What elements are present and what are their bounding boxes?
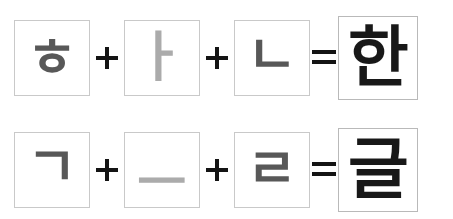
jamo-box-giyeok: ㄱ bbox=[14, 132, 90, 208]
equals-operator-2 bbox=[310, 132, 338, 208]
plus-operator-1 bbox=[90, 20, 124, 96]
jamo-box-rieul: ㄹ bbox=[234, 132, 310, 208]
syllable-glyph-han: 한 bbox=[348, 25, 409, 91]
equals-operator-1 bbox=[310, 20, 338, 96]
jamo-box-nieun: ㄴ bbox=[234, 20, 310, 96]
syllable-glyph-geul: 글 bbox=[348, 137, 409, 203]
syllable-box-han: 한 bbox=[338, 16, 418, 100]
jamo-glyph-giyeok: ㄱ bbox=[27, 141, 77, 195]
row-left-spacer bbox=[0, 170, 14, 171]
plus-operator-2 bbox=[200, 20, 234, 96]
hangul-composition-diagram: ㅎ ㅏ ㄴ 한 ㄱ bbox=[0, 0, 453, 219]
equation-row-han: ㅎ ㅏ ㄴ 한 bbox=[0, 10, 453, 106]
jamo-glyph-nieun: ㄴ bbox=[247, 29, 297, 83]
plus-icon-vertical-bar bbox=[215, 47, 219, 69]
plus-icon-vertical-bar bbox=[215, 159, 219, 181]
equals-icon-top-bar bbox=[312, 162, 336, 166]
syllable-box-geul: 글 bbox=[338, 128, 418, 212]
equals-icon-top-bar bbox=[312, 50, 336, 54]
row-left-spacer bbox=[0, 58, 14, 59]
equals-icon-bottom-bar bbox=[312, 172, 336, 176]
jamo-glyph-hieut: ㅎ bbox=[27, 32, 77, 86]
jamo-glyph-rieul: ㄹ bbox=[247, 143, 297, 197]
jamo-glyph-a: ㅏ bbox=[135, 31, 185, 85]
plus-icon-vertical-bar bbox=[105, 47, 109, 69]
jamo-box-eu: ㅡ bbox=[124, 132, 200, 208]
plus-operator-3 bbox=[90, 132, 124, 208]
jamo-glyph-eu: ㅡ bbox=[137, 157, 187, 211]
jamo-box-a: ㅏ bbox=[124, 20, 200, 96]
equation-row-geul: ㄱ ㅡ ㄹ 글 bbox=[0, 122, 453, 218]
plus-icon-vertical-bar bbox=[105, 159, 109, 181]
plus-operator-4 bbox=[200, 132, 234, 208]
jamo-box-hieut: ㅎ bbox=[14, 20, 90, 96]
equals-icon-bottom-bar bbox=[312, 60, 336, 64]
